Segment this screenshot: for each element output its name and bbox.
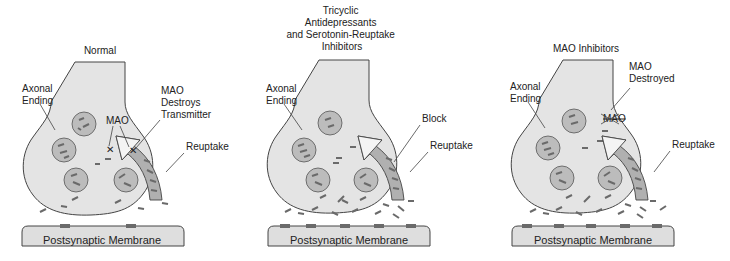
panel-title-mao-inhibitors: MAO Inhibitors [553, 43, 619, 54]
label-mao-destroys-transmitter: MAODestroysTransmitter [161, 85, 212, 120]
membrane-label: Postsynaptic Membrane [534, 234, 652, 246]
mao-crossed-out: MAO [603, 113, 626, 124]
membrane-label: Postsynaptic Membrane [43, 234, 161, 246]
panel-title-normal: Normal [84, 45, 116, 56]
panel-tricyclic: Tricyclic Antidepressants and Serotonin-… [266, 5, 473, 246]
label-mao: MAO [106, 115, 129, 126]
label-reuptake: Reuptake [430, 140, 473, 151]
panel-title-tricyclic: Tricyclic Antidepressants and Serotonin-… [286, 5, 397, 52]
receptor [60, 224, 70, 228]
receptor [126, 224, 136, 228]
label-block: Block [422, 113, 447, 124]
label-axonal-ending: AxonalEnding [266, 83, 297, 106]
mao-x-icon: ✕ [129, 145, 137, 156]
label-axonal-ending: AxonalEnding [22, 83, 53, 106]
label-reuptake: Reuptake [672, 139, 715, 150]
label-mao-destroyed: MAODestroyed [629, 61, 675, 84]
synapse-diagram: Normal ✕ ✕ AxonalEnding MAO MAODestroysT… [0, 0, 730, 261]
panel-normal: Normal ✕ ✕ AxonalEnding MAO MAODestroysT… [22, 45, 229, 246]
label-reuptake: Reuptake [186, 141, 229, 152]
membrane-label: Postsynaptic Membrane [290, 234, 408, 246]
panel-mao-inhibitors: MAO Inhibitors MAO AxonalEnding MAODestr… [510, 43, 715, 246]
mao-x-icon: ✕ [106, 144, 114, 155]
label-axonal-ending: AxonalEnding [510, 81, 541, 104]
